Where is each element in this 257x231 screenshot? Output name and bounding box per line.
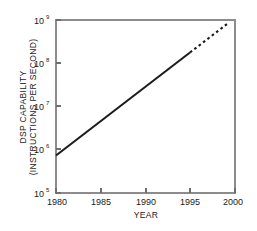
- y-tick-label-1e9-base: 10: [34, 16, 44, 26]
- plot-frame: [56, 20, 235, 193]
- x-axis-ticks: [56, 188, 235, 193]
- x-tick-label-1985: 1985: [91, 197, 111, 207]
- x-tick-label-1990: 1990: [136, 197, 156, 207]
- x-tick-label-1995: 1995: [180, 197, 200, 207]
- x-tick-label-2000: 2000: [223, 197, 243, 207]
- chart-container: 10 9 10 8 10 7 10 6 10 5 1980 1985 1990 …: [0, 0, 257, 231]
- y-axis-ticks: [56, 20, 61, 193]
- dsp-capability-chart: 10 9 10 8 10 7 10 6 10 5 1980 1985 1990 …: [0, 0, 257, 231]
- series-historical-line: [56, 53, 190, 156]
- y-axis-title: DSP CAPABILITY (INSTRUCTIONS PER SECOND): [18, 39, 38, 176]
- series-projected-line: [190, 23, 229, 53]
- y-tick-label-1e6-exponent: 6: [46, 143, 50, 149]
- y-tick-label-1e8-exponent: 8: [46, 57, 50, 63]
- y-axis-title-line1: DSP CAPABILITY: [18, 70, 28, 143]
- x-axis-tick-labels: 1980 1985 1990 1995 2000: [47, 197, 243, 207]
- x-axis-title: YEAR: [134, 210, 159, 220]
- y-axis-title-line2: (INSTRUCTIONS PER SECOND): [28, 39, 38, 176]
- y-tick-label-1e5-base: 10: [34, 189, 44, 199]
- x-tick-label-1980: 1980: [47, 197, 67, 207]
- y-tick-label-1e9-exponent: 9: [46, 14, 50, 20]
- y-tick-label-1e5-exponent: 5: [46, 187, 50, 193]
- axes-border: [56, 20, 235, 193]
- data-series-group: [56, 23, 229, 156]
- y-tick-label-1e7-exponent: 7: [46, 100, 50, 106]
